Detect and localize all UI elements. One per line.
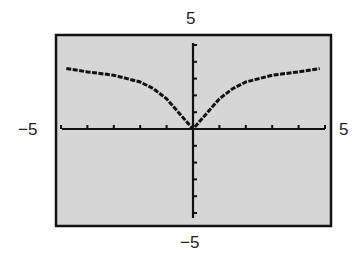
graph-plot bbox=[0, 0, 361, 261]
